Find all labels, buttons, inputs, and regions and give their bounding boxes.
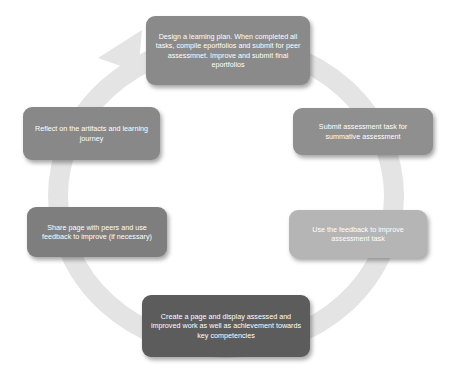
step-submit: Submit assessment task for summative ass… [293, 108, 433, 155]
step-share-text: Share page with peers and use feedback t… [35, 223, 159, 241]
step-create: Create a page and display assessed and i… [142, 295, 310, 357]
step-reflect-text: Reflect on the artifacts and learning jo… [31, 124, 152, 142]
step-feedback-text: Use the feedback to improve assessment t… [297, 225, 419, 243]
step-reflect: Reflect on the artifacts and learning jo… [23, 107, 160, 160]
arrowhead-icon [98, 30, 142, 72]
step-design-text: Design a learning plan. When completed a… [154, 32, 302, 69]
step-submit-text: Submit assessment task for summative ass… [301, 122, 425, 140]
step-design: Design a learning plan. When completed a… [146, 16, 310, 85]
step-share: Share page with peers and use feedback t… [27, 207, 167, 257]
step-create-text: Create a page and display assessed and i… [150, 312, 302, 340]
step-feedback: Use the feedback to improve assessment t… [289, 210, 427, 258]
